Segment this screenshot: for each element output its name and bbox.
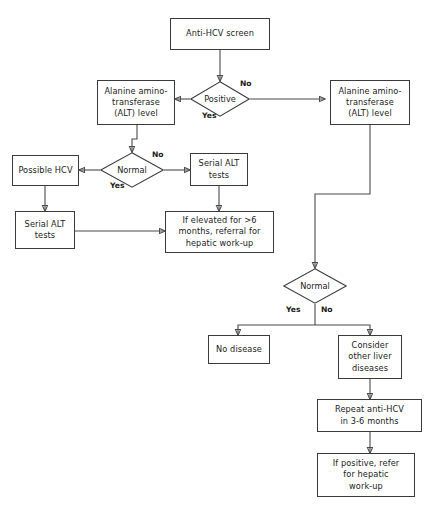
- node-no-disease-label: No disease: [216, 344, 262, 355]
- node-if-positive-refer[interactable]: If positive, refer for hepatic work-up: [317, 453, 415, 497]
- node-consider-other-liver-label: Consider other liver diseases: [348, 340, 391, 373]
- node-if-elevated-label: If elevated for >6 months, referral for …: [179, 215, 261, 248]
- node-anti-hcv-screen[interactable]: Anti-HCV screen: [170, 18, 270, 50]
- node-no-disease[interactable]: No disease: [208, 335, 270, 364]
- edge-label-normal-right-yes: Yes: [286, 305, 300, 314]
- link-alt-right-to-normal-right: [315, 125, 370, 268]
- edge-label-normal-left-no: No: [152, 150, 164, 159]
- node-repeat-anti-hcv-label: Repeat anti-HCV in 3-6 months: [335, 404, 404, 426]
- node-possible-hcv[interactable]: Possible HCV: [12, 155, 79, 186]
- node-possible-hcv-label: Possible HCV: [18, 165, 72, 176]
- link-normal-right-yes-to-no-disease: [238, 325, 315, 335]
- node-alt-level-left[interactable]: Alanine amino- transferase (ALT) level: [97, 80, 175, 125]
- link-alt-left-to-normal-left: [132, 125, 137, 152]
- node-serial-alt-tests-right-label: Serial ALT tests: [199, 158, 240, 180]
- node-alt-level-right-label: Alanine amino- transferase (ALT) level: [338, 86, 401, 119]
- node-consider-other-liver[interactable]: Consider other liver diseases: [338, 335, 402, 379]
- node-if-positive-refer-label: If positive, refer for hepatic work-up: [333, 458, 400, 491]
- link-normal-right-no-to-consider: [315, 325, 370, 335]
- node-normal-decision-right[interactable]: Normal: [283, 268, 347, 304]
- flowchart-canvas: Anti-HCV screen Positive Yes No Alanine …: [0, 0, 427, 507]
- node-if-elevated[interactable]: If elevated for >6 months, referral for …: [165, 211, 274, 253]
- edge-label-positive-yes: Yes: [202, 111, 216, 120]
- node-serial-alt-tests-left[interactable]: Serial ALT tests: [15, 211, 75, 249]
- node-anti-hcv-screen-label: Anti-HCV screen: [186, 28, 254, 39]
- edge-label-positive-no: No: [240, 79, 252, 88]
- edge-label-normal-right-no: No: [321, 305, 333, 314]
- node-serial-alt-tests-right[interactable]: Serial ALT tests: [190, 153, 248, 186]
- node-repeat-anti-hcv[interactable]: Repeat anti-HCV in 3-6 months: [317, 399, 422, 432]
- node-alt-level-right[interactable]: Alanine amino- transferase (ALT) level: [330, 80, 410, 125]
- node-alt-level-left-label: Alanine amino- transferase (ALT) level: [104, 86, 167, 119]
- edge-label-normal-left-yes: Yes: [110, 181, 124, 190]
- node-serial-alt-tests-left-label: Serial ALT tests: [25, 219, 66, 241]
- node-normal-decision-right-label: Normal: [283, 268, 347, 304]
